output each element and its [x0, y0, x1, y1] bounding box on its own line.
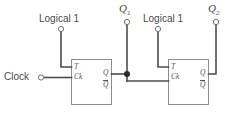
q1-subscript: 1	[127, 9, 131, 17]
clock-label: Clock	[4, 71, 29, 82]
clock-terminal-icon[interactable]	[38, 75, 43, 80]
flipflop-2-t-pin-label: T	[171, 62, 175, 71]
flipflop-1-ck-pin-label: Ck	[74, 72, 82, 81]
wire-q2-to-terminal	[209, 25, 217, 74]
flipflop-1-qbar-pin-label: Q	[103, 80, 108, 89]
logical-one-label-right: Logical 1	[143, 13, 183, 24]
circuit-diagram: Clock Logical 1 Logical 1 Q1 Q2 T Ck Q Q…	[0, 0, 238, 118]
flipflop-1-t-pin-label: T	[74, 62, 78, 71]
q1-terminal-icon[interactable]	[124, 19, 129, 24]
q2-subscript: 2	[216, 9, 220, 17]
wire-logical-one-right-to-t2	[158, 32, 169, 67]
logical-one-label-left: Logical 1	[39, 13, 79, 24]
q1-output-label: Q1	[119, 2, 130, 17]
q2-output-label: Q2	[208, 2, 219, 17]
q2-letter: Q	[208, 2, 216, 14]
logical-one-terminal-left-icon[interactable]	[58, 26, 63, 31]
flipflop-1-q-pin-label: Q	[103, 68, 108, 77]
q1-junction-dot	[124, 71, 130, 77]
q1-letter: Q	[119, 2, 127, 14]
flipflop-2-qbar-pin-label: Q	[200, 80, 205, 89]
flipflop-2-ck-pin-label: Ck	[171, 72, 179, 81]
q2-terminal-icon[interactable]	[213, 19, 218, 24]
wire-logical-one-left-to-t1	[61, 32, 72, 67]
circuit-schematic-canvas	[0, 0, 238, 118]
logical-one-terminal-right-icon[interactable]	[155, 26, 160, 31]
flipflop-2-q-pin-label: Q	[200, 68, 205, 77]
